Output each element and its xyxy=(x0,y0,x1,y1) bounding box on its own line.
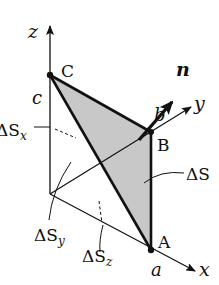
intercept-c-label: c xyxy=(32,87,42,108)
vertex-A-dot xyxy=(148,247,154,253)
y-axis-label: y xyxy=(193,92,205,114)
point-B-label: B xyxy=(157,135,170,155)
point-C-label: C xyxy=(61,61,74,81)
normal-n-label: n xyxy=(176,58,190,80)
vertex-C-dot xyxy=(47,72,53,78)
x-axis-label: x xyxy=(199,258,210,280)
dSx-dashed xyxy=(55,129,76,138)
dSz-label: ΔSz xyxy=(82,246,113,269)
point-A-label: A xyxy=(157,232,171,252)
intercept-a-label: a xyxy=(151,259,162,280)
dSy-label: ΔSy xyxy=(34,225,65,248)
intercept-b-label: b xyxy=(154,104,166,125)
x-axis xyxy=(50,194,195,271)
z-axis-label: z xyxy=(27,20,39,42)
dSy-leader xyxy=(49,162,71,220)
tetrahedron-diagram: z y x C B A c b a n ΔSx ΔSy ΔSz ΔS xyxy=(0,0,219,285)
dSx-label: ΔSx xyxy=(0,120,27,143)
dS-label: ΔS xyxy=(186,164,210,184)
